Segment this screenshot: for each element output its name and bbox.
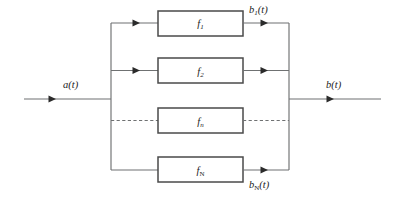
branch-row-1: f1 b1(t) (111, 4, 289, 36)
input-arrowhead-icon (49, 96, 57, 103)
parallel-system-diagram: a(t) b(t) f1 b1(t) (0, 0, 402, 206)
branch-N-output-arrowhead-icon (261, 167, 269, 174)
branch-row-2: f2 (111, 58, 289, 83)
branch-1-output-label: b1(t) (249, 4, 268, 17)
output-label: b(t) (326, 79, 342, 91)
branch-row-N: fN bN(t) (111, 157, 289, 192)
block-fn-label-sub: n (200, 121, 204, 129)
branch-N-output-label: bN(t) (249, 179, 270, 192)
block-diagram-canvas: a(t) b(t) f1 b1(t) (0, 0, 402, 206)
input-label-arg: (t) (68, 79, 78, 91)
branch-N-output-label-arg: (t) (259, 179, 269, 191)
block-fN-label-sub: N (199, 170, 204, 178)
branch-1-input-arrowhead-icon (133, 20, 141, 27)
branch-1-output-label-arg: (t) (258, 4, 268, 16)
block-f1-label-sub: 1 (200, 23, 204, 31)
input-label: a(t) (63, 79, 79, 91)
branch-row-n: fn (111, 108, 289, 133)
branch-2-output-arrowhead-icon (261, 67, 269, 74)
branch-1-output-arrowhead-icon (261, 20, 269, 27)
output-label-arg: (t) (331, 79, 341, 91)
block-f2-label-sub: 2 (200, 71, 204, 79)
branch-2-input-arrowhead-icon (133, 67, 141, 74)
output-arrowhead-icon (327, 96, 335, 103)
